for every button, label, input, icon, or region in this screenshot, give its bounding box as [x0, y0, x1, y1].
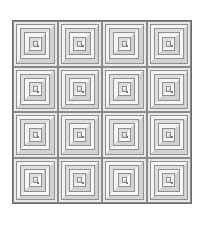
- quilt-block: [58, 112, 103, 158]
- quilt-block: [102, 21, 147, 67]
- quilt-block-center: [126, 45, 128, 47]
- quilt-block-center: [171, 182, 173, 184]
- quilt-block: [58, 67, 103, 113]
- quilt-block: [147, 158, 192, 204]
- quilt-block-center: [82, 136, 84, 138]
- quilt-block: [13, 21, 58, 67]
- quilt-block-center: [82, 45, 84, 47]
- quilt-block: [102, 158, 147, 204]
- quilt-block-center: [171, 91, 173, 93]
- quilt-block-center: [37, 45, 39, 47]
- quilt-block-center: [37, 182, 39, 184]
- quilt-block: [58, 158, 103, 204]
- quilt-block-center: [126, 182, 128, 184]
- quilt-block-center: [37, 91, 39, 93]
- quilt-block: [13, 67, 58, 113]
- quilt-block-center: [82, 91, 84, 93]
- quilt-block-center: [126, 136, 128, 138]
- quilt-block: [147, 21, 192, 67]
- quilt-block-center: [171, 136, 173, 138]
- quilt-block-center: [126, 91, 128, 93]
- quilt-block: [58, 21, 103, 67]
- quilt-block-center: [82, 182, 84, 184]
- quilt-block-center: [171, 45, 173, 47]
- quilt-block-center: [37, 136, 39, 138]
- quilt-block: [102, 67, 147, 113]
- quilt-block: [102, 112, 147, 158]
- quilt-block: [13, 158, 58, 204]
- quilt-block: [147, 67, 192, 113]
- quilt-block: [13, 112, 58, 158]
- quilt-grid: [12, 20, 192, 204]
- quilt-block: [147, 112, 192, 158]
